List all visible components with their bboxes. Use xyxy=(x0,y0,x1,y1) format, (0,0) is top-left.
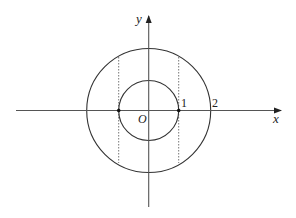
point-neg-1 xyxy=(117,109,121,113)
coordinate-diagram: y x O 1 2 xyxy=(0,0,296,218)
tick-label-1: 1 xyxy=(181,96,187,110)
y-axis-label: y xyxy=(134,11,142,26)
origin-label: O xyxy=(138,112,147,126)
tick-label-2: 2 xyxy=(212,96,218,110)
point-1 xyxy=(177,109,181,113)
x-axis-label: x xyxy=(272,111,279,126)
